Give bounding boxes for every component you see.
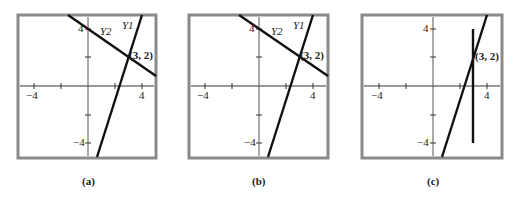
y-tick-label-4: 4 bbox=[423, 22, 429, 34]
label-y2: Y2 bbox=[100, 25, 112, 37]
label-y1: Y1 bbox=[293, 19, 305, 31]
x-tick-label-neg4: −4 bbox=[26, 89, 38, 101]
caption-c: (c) bbox=[427, 175, 439, 187]
y-tick-label-neg4: −4 bbox=[417, 136, 429, 148]
x-tick-label-4: 4 bbox=[310, 89, 316, 101]
label-y2: Y2 bbox=[271, 25, 283, 37]
y-tick-label-neg4: −4 bbox=[244, 136, 256, 148]
y-tick-label-4: 4 bbox=[78, 22, 84, 34]
x-tick-label-4: 4 bbox=[484, 89, 490, 101]
x-tick-label-4: 4 bbox=[139, 89, 145, 101]
panel-b: −4 4 4 −4 Y2 Y1 (3, 2) (b) bbox=[171, 0, 346, 199]
intersection-label: (3, 2) bbox=[129, 49, 153, 61]
y-tick-label-neg4: −4 bbox=[73, 136, 85, 148]
intersection-label: (3, 2) bbox=[475, 50, 499, 62]
panel-c: −4 4 4 −4 (3, 2) (c) bbox=[344, 0, 519, 199]
panel-a: −4 4 4 −4 Y2 Y1 (3, 2) (a) bbox=[0, 0, 175, 199]
y-tick-label-4: 4 bbox=[249, 22, 255, 34]
intersection-label: (3, 2) bbox=[300, 49, 324, 61]
label-y1: Y1 bbox=[122, 19, 134, 31]
x-tick-label-neg4: −4 bbox=[197, 89, 209, 101]
caption-a: (a) bbox=[82, 175, 95, 187]
x-tick-label-neg4: −4 bbox=[371, 89, 383, 101]
caption-b: (b) bbox=[252, 175, 265, 187]
